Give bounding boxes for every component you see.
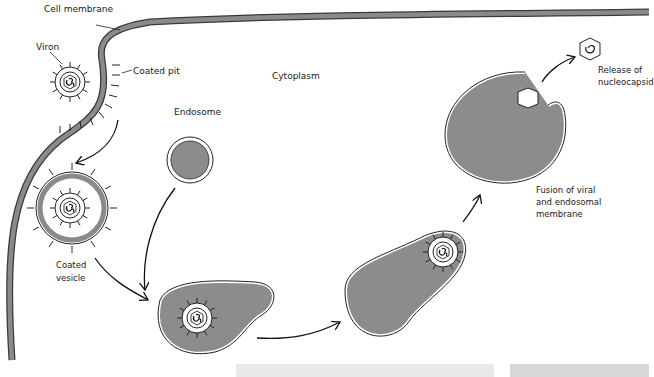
label-cytoplasm: Cytoplasm: [272, 71, 320, 82]
nucleocapsid-icon: [580, 38, 600, 60]
label-release-1: Release of: [598, 64, 642, 76]
label-coated-vesicle-1: Coated: [56, 259, 86, 271]
label-viron: Viron: [36, 42, 59, 53]
label-fusion-1: Fusion of viral: [536, 184, 595, 196]
micrograph-1: [236, 364, 494, 377]
label-cell-membrane: Cell membrane: [44, 4, 113, 15]
label-coated-vesicle-2: vesicle: [56, 272, 85, 284]
virion-icon: [50, 62, 90, 102]
micrograph-2: [510, 364, 649, 377]
label-release-2: nucleocapsid: [598, 76, 654, 88]
label-endosome: Endosome: [174, 107, 221, 118]
label-coated-pit: Coated pit: [133, 66, 180, 77]
label-fusion-2: and endosomal membrane: [536, 196, 649, 220]
